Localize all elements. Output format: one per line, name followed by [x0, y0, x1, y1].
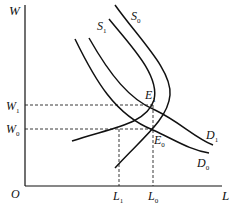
- x-axis-label: L: [221, 188, 229, 203]
- labor-market-diagram: W L O W1 W0 L1 L0 S1 S0 E1 E0 D1 D0: [0, 0, 231, 206]
- s0-label: S0: [131, 9, 141, 25]
- l1-label: L1: [112, 189, 124, 205]
- supply-curve-s1: [72, 19, 155, 141]
- y-axis-label: W: [9, 3, 21, 18]
- w0-label: W0: [6, 122, 20, 138]
- s1-label: S1: [97, 19, 107, 35]
- demand-curve-d0: [75, 39, 209, 153]
- l0-label: L0: [147, 189, 159, 205]
- d1-label: D1: [205, 128, 219, 144]
- w1-label: W1: [6, 99, 20, 115]
- origin-label: O: [11, 187, 20, 201]
- d0-label: D0: [196, 156, 210, 172]
- dashed-guides: [25, 105, 153, 186]
